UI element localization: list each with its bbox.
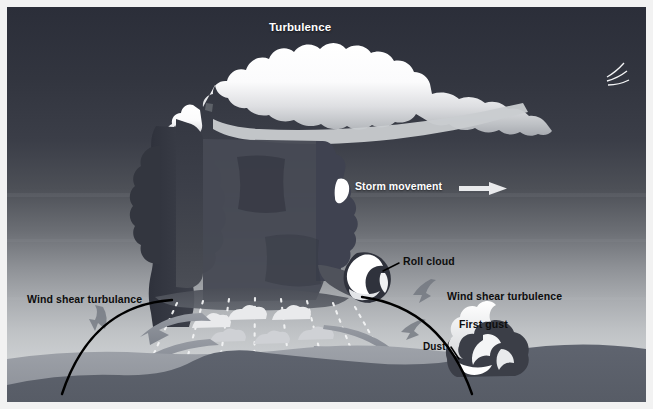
storm-movement-arrow-icon: [459, 182, 507, 195]
roll-cloud: [344, 252, 391, 303]
cirrus-streaks: [607, 63, 629, 85]
diagram-plate: Turbulence Storm movement Roll cloud Win…: [7, 7, 646, 402]
anvil-cloud: [167, 43, 629, 144]
label-first-gust: First gust: [459, 318, 508, 330]
thunderstorm-diagram: Turbulence Storm movement Roll cloud Win…: [0, 0, 653, 409]
label-dust: Dust: [423, 341, 446, 352]
scene-vector-layer: [7, 7, 646, 402]
terrain: [7, 345, 646, 403]
label-wind-shear-left: Wind shear turbulance: [27, 293, 142, 305]
label-storm-movement: Storm movement: [355, 180, 442, 192]
label-roll-cloud: Roll cloud: [403, 255, 455, 267]
label-turbulence: Turbulence: [269, 21, 331, 33]
scud-clouds: [192, 305, 334, 344]
label-wind-shear-right: Wind shear turbulence: [447, 290, 562, 302]
